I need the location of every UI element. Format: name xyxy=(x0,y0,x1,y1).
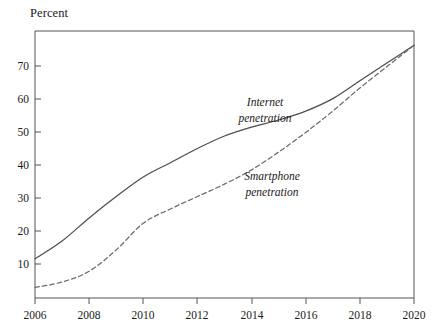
x-tick-label-2020: 2020 xyxy=(403,309,426,321)
line-chart-plot: 70 60 50 40 30 20 10 2006 2008 2010 2012… xyxy=(0,0,445,330)
y-tick-label-30: 30 xyxy=(18,192,30,204)
x-tick-label-2010: 2010 xyxy=(132,309,155,321)
smartphone-annotation-line2: penetration xyxy=(244,186,298,199)
internet-penetration-line xyxy=(35,45,414,259)
frame-border xyxy=(35,31,414,298)
x-tick-label-2008: 2008 xyxy=(78,309,101,321)
y-tick-label-10: 10 xyxy=(18,258,30,270)
y-tick-label-60: 60 xyxy=(18,93,30,105)
y-tick-label-40: 40 xyxy=(18,159,30,171)
x-tick-label-2006: 2006 xyxy=(24,309,47,321)
internet-annotation: Internet penetration xyxy=(237,96,291,125)
plot-frame xyxy=(35,31,414,298)
smartphone-penetration-line xyxy=(35,45,414,287)
y-tick-label-50: 50 xyxy=(18,126,30,138)
x-tick-label-2012: 2012 xyxy=(186,309,209,321)
y-tick-label-70: 70 xyxy=(18,60,30,72)
x-tick-label-2016: 2016 xyxy=(295,309,318,321)
x-tick-label-2018: 2018 xyxy=(349,309,372,321)
smartphone-annotation: Smartphone penetration xyxy=(244,170,300,199)
y-axis-ticks: 70 60 50 40 30 20 10 xyxy=(18,60,42,270)
internet-annotation-line2: penetration xyxy=(237,112,291,125)
x-tick-label-2014: 2014 xyxy=(241,309,264,321)
x-axis-ticks: 2006 2008 2010 2012 2014 2016 2018 2020 xyxy=(24,298,426,321)
internet-annotation-line1: Internet xyxy=(246,96,284,108)
chart-container: Percent 70 60 50 40 30 20 10 xyxy=(0,0,445,330)
smartphone-annotation-line1: Smartphone xyxy=(244,170,300,183)
y-tick-label-20: 20 xyxy=(18,225,30,237)
